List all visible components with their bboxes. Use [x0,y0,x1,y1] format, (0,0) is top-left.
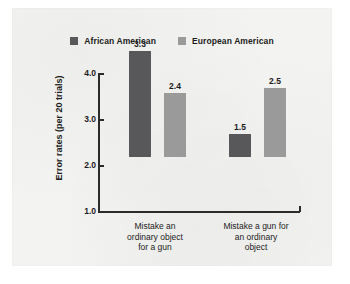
category-line: Mistake a gun for [208,221,304,232]
bar-group-1-series-0[interactable]: 1.5 [229,134,251,157]
figure-panel: African American European American Error… [12,8,332,266]
bar-value-label: 1.5 [234,122,246,132]
bar-rect [264,88,286,157]
bar-value-label: 2.5 [269,76,281,86]
x-category-label-0: Mistake an ordinary object for a gun [107,221,203,253]
bar-rect [229,134,251,157]
bar-group-1-series-1[interactable]: 2.5 [264,88,286,157]
category-line: ordinary object [107,232,203,243]
bar-value-label: 3.3 [134,39,146,49]
category-line: for a gun [107,242,203,253]
bar-rect [164,93,186,157]
category-line: object [208,242,304,253]
bar-group-0-series-1[interactable]: 2.4 [164,93,186,157]
bars-container: 3.3 2.4 1.5 2.5 [12,8,332,212]
bar-chart-plot: Error rates (per 20 trials) 4.0 3.0 2.0 … [12,8,332,266]
x-category-label-1: Mistake a gun for an ordinary object [208,221,304,253]
bar-rect [129,51,151,157]
category-line: an ordinary [208,232,304,243]
bar-value-label: 2.4 [169,81,181,91]
bar-group-0-series-0[interactable]: 3.3 [129,51,151,157]
category-line: Mistake an [107,221,203,232]
